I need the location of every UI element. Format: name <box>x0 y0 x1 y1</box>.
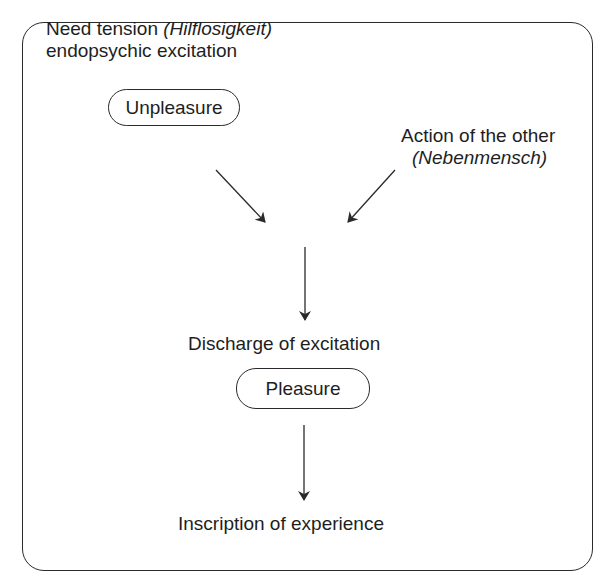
arrows-layer <box>0 0 613 587</box>
arrow-other-to-center <box>348 170 395 222</box>
arrow-unpleasure-to-center <box>216 170 265 222</box>
